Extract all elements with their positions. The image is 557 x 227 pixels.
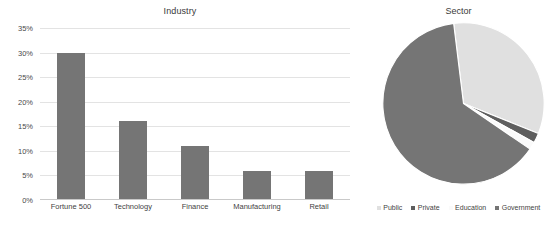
legend-label: Private bbox=[418, 204, 440, 211]
bar bbox=[305, 171, 333, 200]
bar-chart-x-axis: Fortune 500TechnologyFinanceManufacturin… bbox=[40, 202, 350, 216]
charts-container: Industry 0%5%10%15%20%25%30%35% Fortune … bbox=[0, 0, 557, 227]
y-axis-tick-label: 35% bbox=[18, 24, 33, 33]
legend-item[interactable]: Private bbox=[411, 204, 439, 211]
y-axis-tick-label: 15% bbox=[18, 122, 33, 131]
y-axis-tick-label: 5% bbox=[22, 171, 33, 180]
legend-swatch-icon bbox=[411, 206, 415, 210]
legend-swatch-icon bbox=[377, 206, 381, 210]
legend-label: Education bbox=[455, 204, 486, 211]
industry-bar-chart: Industry 0%5%10%15%20%25%30%35% Fortune … bbox=[0, 0, 360, 227]
pie-chart-legend: PublicPrivateEducationGovernment bbox=[360, 204, 557, 211]
pie-plot-area bbox=[382, 22, 545, 185]
x-axis-tick-label: Technology bbox=[114, 202, 152, 211]
legend-item[interactable]: Government bbox=[495, 204, 540, 211]
x-axis-tick-label: Fortune 500 bbox=[51, 202, 91, 211]
y-axis-tick-label: 30% bbox=[18, 48, 33, 57]
y-axis-tick-label: 0% bbox=[22, 196, 33, 205]
pie-chart-title: Sector bbox=[360, 6, 557, 16]
bar bbox=[57, 53, 85, 200]
x-axis-line bbox=[40, 199, 350, 200]
x-axis-tick-label: Retail bbox=[309, 202, 328, 211]
bar bbox=[119, 121, 147, 200]
pie-slices bbox=[382, 22, 545, 185]
x-axis-tick-label: Manufacturing bbox=[233, 202, 281, 211]
legend-label: Public bbox=[383, 204, 402, 211]
y-axis-tick-label: 25% bbox=[18, 73, 33, 82]
legend-swatch-icon bbox=[449, 206, 453, 210]
x-axis-tick-label: Finance bbox=[182, 202, 209, 211]
bar bbox=[181, 146, 209, 200]
legend-label: Government bbox=[502, 204, 541, 211]
legend-swatch-icon bbox=[495, 206, 499, 210]
bar-chart-plot-area bbox=[40, 28, 350, 200]
bar bbox=[243, 171, 271, 200]
bar-series bbox=[40, 28, 350, 200]
legend-item[interactable]: Public bbox=[377, 204, 403, 211]
bar-chart-y-axis: 0%5%10%15%20%25%30%35% bbox=[0, 28, 36, 200]
y-axis-tick-label: 10% bbox=[18, 146, 33, 155]
sector-pie-chart: Sector PublicPrivateEducationGovernment bbox=[360, 0, 557, 227]
bar-chart-title: Industry bbox=[0, 6, 360, 16]
y-axis-tick-label: 20% bbox=[18, 97, 33, 106]
legend-item[interactable]: Education bbox=[449, 204, 487, 211]
